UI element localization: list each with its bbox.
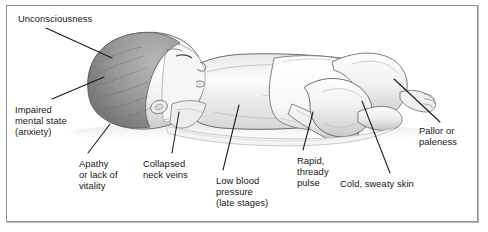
label-apathy-or-lack-of-vitality: Apathy or lack of vitality (79, 158, 118, 191)
label-low-blood-pressure: Low blood pressure (late stages) (216, 175, 268, 208)
label-unconsciousness: Unconsciousness (18, 13, 92, 24)
label-cold-sweaty-skin: Cold, sweaty skin (340, 178, 414, 189)
label-collapsed-neck-veins: Collapsed neck veins (143, 158, 188, 180)
label-impaired-mental-state: Impaired mental state (anxiety) (15, 104, 67, 137)
label-pallor-or-paleness: Pallor or paleness (419, 125, 457, 147)
figure-root: Unconsciousness Impaired mental state (a… (0, 0, 488, 232)
label-rapid-thready-pulse: Rapid, thready pulse (297, 155, 329, 188)
